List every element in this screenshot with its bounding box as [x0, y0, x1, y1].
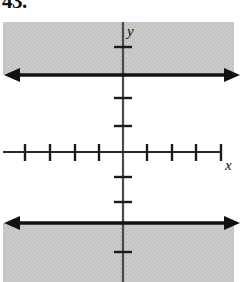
coordinate-graph: y x — [0, 0, 244, 282]
math-figure-43: 43. — [0, 0, 244, 282]
graph-canvas: y x — [0, 0, 244, 282]
y-axis-label: y — [125, 23, 134, 39]
x-axis-label: x — [224, 157, 232, 173]
shaded-region-upper — [3, 22, 234, 75]
